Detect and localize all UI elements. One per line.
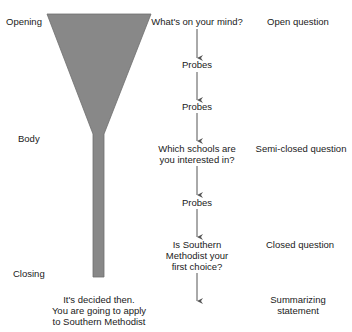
type-summarizing: Summarizing statement	[270, 294, 325, 316]
type-closed: Closed question	[266, 239, 334, 250]
funnel-shape	[47, 14, 151, 277]
type-semi-closed: Semi-closed question	[256, 143, 347, 154]
funnel-diagram	[0, 0, 352, 332]
probe-3: Probes	[182, 197, 212, 208]
closing-statement: It's decided then. You are going to appl…	[52, 294, 146, 327]
phase-opening: Opening	[6, 16, 42, 27]
type-open: Open question	[267, 16, 329, 27]
phase-closing: Closing	[13, 268, 45, 279]
probe-1: Probes	[182, 59, 212, 70]
question-semi-closed: Which schools are you interested in?	[158, 143, 236, 165]
question-open: What's on your mind?	[151, 16, 243, 27]
question-closed: Is Southern Methodist your first choice?	[166, 239, 228, 272]
phase-body: Body	[18, 133, 40, 144]
probe-2: Probes	[182, 101, 212, 112]
